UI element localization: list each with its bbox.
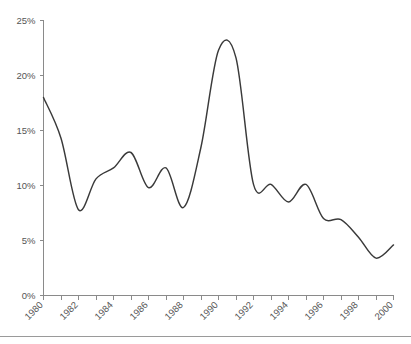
y-axis: 0%5%10%15%20%25% bbox=[16, 15, 43, 301]
line-chart: 0%5%10%15%20%25% 19801982198419861988199… bbox=[0, 0, 411, 344]
x-tick-label: 1982 bbox=[57, 299, 80, 322]
chart-container: 0%5%10%15%20%25% 19801982198419861988199… bbox=[0, 0, 411, 344]
x-tick-label: 1984 bbox=[92, 299, 115, 322]
footer-divider bbox=[0, 336, 411, 337]
x-tick-label: 1988 bbox=[162, 299, 185, 322]
x-axis: 1980198219841986198819901992199419961998… bbox=[22, 296, 395, 322]
x-tick-label: 1980 bbox=[22, 299, 45, 322]
y-axis-tick-labels: 0%5%10%15%20%25% bbox=[16, 15, 36, 301]
y-tick-label: 5% bbox=[22, 235, 36, 246]
y-tick-label: 15% bbox=[16, 125, 36, 136]
y-tick-label: 10% bbox=[16, 180, 36, 191]
y-tick-label: 20% bbox=[16, 70, 36, 81]
x-tick-label: 1990 bbox=[197, 299, 220, 322]
x-axis-ticks bbox=[44, 296, 394, 300]
x-axis-tick-labels: 1980198219841986198819901992199419961998… bbox=[22, 299, 395, 322]
data-series-group bbox=[44, 40, 394, 258]
y-tick-label: 0% bbox=[22, 290, 36, 301]
y-axis-ticks bbox=[40, 21, 44, 296]
y-tick-label: 25% bbox=[16, 15, 36, 26]
x-tick-label: 1996 bbox=[302, 299, 325, 322]
x-tick-label: 2000 bbox=[372, 299, 395, 322]
x-tick-label: 1994 bbox=[267, 299, 290, 322]
x-tick-label: 1986 bbox=[127, 299, 150, 322]
series-line-rate bbox=[44, 40, 394, 258]
x-tick-label: 1992 bbox=[232, 299, 255, 322]
x-tick-label: 1998 bbox=[337, 299, 360, 322]
